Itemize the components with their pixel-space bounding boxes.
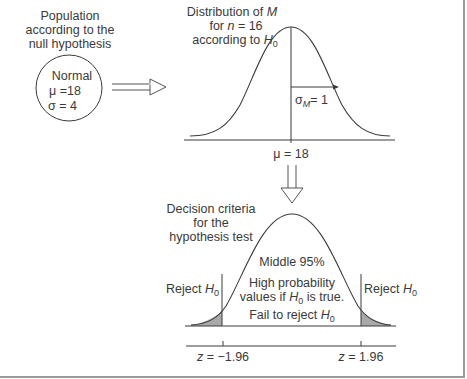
population-caption-line1: Population [40,9,99,23]
fail-to-reject-label: Fail to reject H0 [249,308,335,324]
hypothesis-test-diagram: Population according to the null hypothe… [0,0,467,379]
z-left-label: z = −1.96 [196,350,249,364]
decision-caption-line1: Decision criteria [167,202,256,216]
high-probability-line2: values if H0 is true. [240,290,344,306]
population-caption: Population according to the null hypothe… [26,9,115,51]
sampling-mean-label: μ = 18 [273,147,308,161]
population-caption-line2: according to the [26,23,115,37]
decision-criteria-caption: Decision criteria for the hypothesis tes… [167,202,256,244]
z-right-label: z = 1.96 [338,350,384,364]
right-reject-region [361,311,391,326]
sampling-caption-line3: according to H0 [192,33,278,49]
population-caption-line3: null hypothesis [29,37,112,51]
left-reject-region [191,311,222,326]
sigma-m-label: σM= 1 [295,93,328,109]
decision-caption-line3: hypothesis test [169,230,253,244]
double-arrow-down-icon [281,165,303,203]
high-probability-line1: High probability [249,276,336,290]
reject-right-label: Reject H0 [364,282,417,298]
sampling-caption-line1: Distribution of M [187,5,278,19]
decision-caption-line2: for the [193,216,228,230]
sigma-arrow-icon [291,85,339,90]
population-shape-label: Normal [52,69,92,83]
reject-left-label: Reject H0 [166,282,219,298]
sampling-caption-line2: for n = 16 [209,19,262,33]
population-mu-label: μ =18 [49,84,81,98]
population-sigma-label: σ = 4 [48,99,77,113]
sampling-distribution-caption: Distribution of M for n = 16 according t… [187,5,278,49]
double-arrow-right-icon [112,79,166,95]
middle-95-label: Middle 95% [259,255,324,269]
